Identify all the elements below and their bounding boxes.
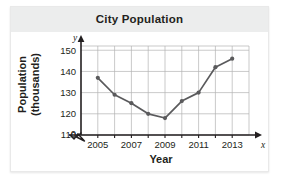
y-tick-label: 150 [60,45,76,56]
data-point-2012 [213,65,217,69]
data-point-2009 [163,116,167,120]
x-tick-label: 2007 [121,139,142,150]
y-axis-letter: y [72,33,78,43]
plot-area: Population (thousands) Year 110120130140… [11,32,270,173]
x-tick-label: 2005 [87,139,108,150]
data-point-2008 [146,112,150,116]
x-axis-letter: x [260,140,266,150]
data-point-2011 [197,91,201,95]
gridlines [81,46,249,135]
page-title: City Population [11,7,268,32]
data-point-2010 [180,99,184,103]
data-point-2005 [96,76,100,80]
y-tick-label: 120 [60,108,76,119]
y-tick-label: 130 [60,87,76,98]
x-tick-label: 2009 [154,139,175,150]
y-tick-label: 140 [60,66,76,77]
chart-figure: City Population Population (thousands) Y… [10,6,269,172]
x-tick-label: 2011 [188,139,208,150]
data-point-2013 [230,57,234,61]
x-tick-labels: 20052007200920112013 [87,139,243,150]
data-point-2007 [129,101,133,105]
y-tick-labels: 1101201301401500 [60,45,76,141]
x-tick-label: 2013 [222,139,243,150]
chart-svg: 1101201301401500 20052007200920112013 yx [11,32,270,173]
data-point-2006 [113,93,117,97]
